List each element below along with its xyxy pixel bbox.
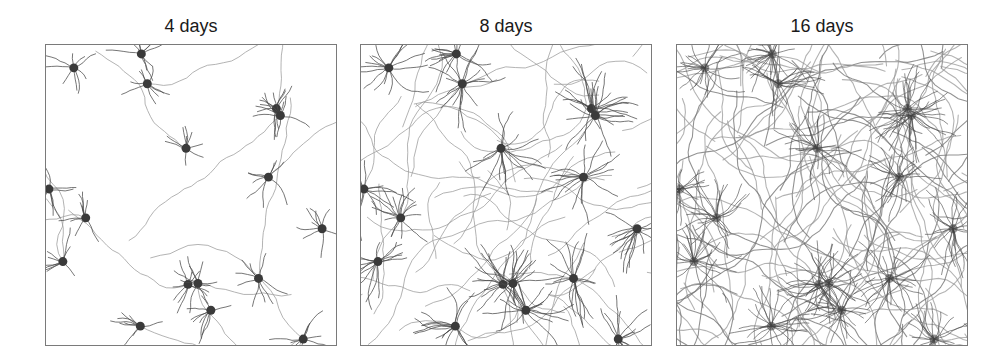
panel-title-4-days: 4 days <box>45 15 337 37</box>
neuron-culture-panel-8-days <box>360 44 652 346</box>
neuron-network-image <box>361 45 651 345</box>
panel-title-16-days: 16 days <box>676 15 968 37</box>
neuron-network-image <box>46 45 336 345</box>
panel-title-8-days: 8 days <box>360 15 652 37</box>
neuron-network-image <box>677 45 967 345</box>
neuron-culture-panel-4-days <box>45 44 337 346</box>
neuron-culture-panel-16-days <box>676 44 968 346</box>
